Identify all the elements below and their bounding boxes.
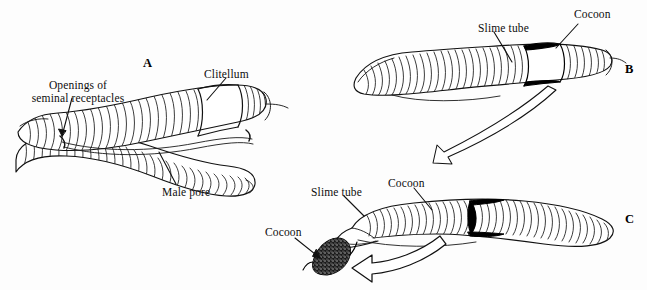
figure-artwork xyxy=(0,0,647,290)
label-slime-tube-b: Slime tube xyxy=(478,22,529,36)
earthworm-reproduction-figure: A B C Openings of seminal receptacles Cl… xyxy=(0,0,647,290)
panel-letter-a: A xyxy=(143,56,152,71)
label-slime-tube-c: Slime tube xyxy=(311,186,362,200)
label-cocoon-c-free: Cocoon xyxy=(265,226,302,240)
label-seminal-receptacles: seminal receptacles xyxy=(8,92,148,106)
label-male-pore: Male pore xyxy=(162,186,210,200)
panel-letter-c: C xyxy=(625,212,634,227)
panel-letter-b: B xyxy=(625,62,633,77)
label-openings-of: Openings of xyxy=(18,79,138,93)
process-arrow-b-to-c xyxy=(433,86,556,164)
label-cocoon-c-band: Cocoon xyxy=(388,177,425,191)
label-cocoon-b: Cocoon xyxy=(574,8,611,22)
panel-c-artwork xyxy=(295,188,613,282)
label-clitellum: Clitellum xyxy=(204,68,249,82)
